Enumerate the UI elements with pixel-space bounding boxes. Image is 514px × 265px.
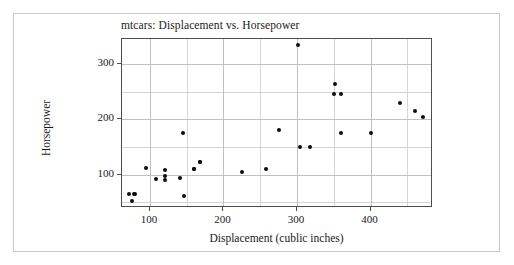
y-axis-tick-label: 200	[74, 111, 114, 123]
chart-title: mtcars: Displacement vs. Horsepower	[121, 19, 300, 31]
gridline-h-150	[122, 147, 431, 148]
data-point	[296, 43, 300, 47]
data-point	[333, 82, 337, 86]
data-point	[339, 131, 343, 135]
y-axis-label: Horsepower	[40, 68, 52, 188]
x-axis-tick	[296, 207, 297, 211]
y-axis-tick	[117, 174, 121, 175]
gridline-v-100	[150, 39, 151, 206]
data-point	[178, 176, 182, 180]
plot-panel	[121, 38, 432, 207]
data-point	[163, 168, 167, 172]
data-point	[298, 145, 302, 149]
x-axis-label: Displacement (cublic inches)	[121, 232, 432, 244]
x-axis-tick	[370, 207, 371, 211]
y-axis-tick-label: 100	[74, 167, 114, 179]
x-axis-tick-label: 400	[350, 213, 390, 225]
data-point	[339, 92, 343, 96]
chart-figure: mtcars: Displacement vs. Horsepower Hors…	[0, 0, 514, 265]
data-point	[192, 167, 196, 171]
gridline-h-250	[122, 92, 431, 93]
y-axis-tick	[117, 63, 121, 64]
x-axis-tick-label: 200	[202, 213, 242, 225]
data-point	[277, 128, 281, 132]
x-axis-tick-label: 300	[276, 213, 316, 225]
data-point	[398, 101, 402, 105]
gridline-h-50	[122, 202, 431, 203]
data-point	[413, 109, 417, 113]
data-point	[127, 192, 131, 196]
data-point	[154, 177, 158, 181]
gridline-v-300	[297, 39, 298, 206]
data-point	[181, 131, 185, 135]
gridline-v-200	[223, 39, 224, 206]
data-point	[240, 170, 244, 174]
data-point	[163, 178, 167, 182]
gridline-h-100	[122, 175, 431, 176]
data-point	[133, 192, 137, 196]
gridline-h-300	[122, 64, 431, 65]
data-point	[182, 194, 186, 198]
y-axis-tick	[117, 118, 121, 119]
gridline-h-200	[122, 119, 431, 120]
data-point	[421, 115, 425, 119]
data-point	[198, 160, 202, 164]
x-axis-tick	[222, 207, 223, 211]
data-point	[308, 145, 312, 149]
data-point	[369, 131, 373, 135]
data-point	[264, 167, 268, 171]
gridline-v-400	[371, 39, 372, 206]
y-axis-tick-label: 300	[74, 56, 114, 68]
data-point	[144, 166, 148, 170]
x-axis-tick-label: 100	[129, 213, 169, 225]
data-point	[332, 92, 336, 96]
x-axis-tick	[149, 207, 150, 211]
